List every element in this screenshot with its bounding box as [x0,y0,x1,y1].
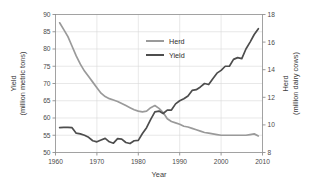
y-left-tick-label: 85 [43,28,51,35]
y-left-tick-label: 70 [43,80,51,87]
y-right-tick-label: 8 [268,149,272,156]
y-axis-right-title-line2: (million dairy cows) [291,52,300,115]
x-tick-label: 1970 [90,158,105,165]
legend-label-herd: Herd [169,37,185,46]
legend-label-yield: Yield [169,51,185,60]
y-right-tick-label: 18 [268,11,276,18]
x-tick-label: 2010 [255,158,270,165]
y-right-tick-label: 16 [268,39,276,46]
x-tick-label: 2000 [214,158,229,165]
y-left-tick-label: 50 [43,149,51,156]
y-left-tick-label: 65 [43,97,51,104]
y-left-tick-label: 55 [43,132,51,139]
x-tick-label: 1990 [172,158,187,165]
x-tick-label: 1980 [131,158,146,165]
y-left-tick-label: 80 [43,45,51,52]
y-axis-left-title-line2: (million metric tons) [18,51,27,115]
y-left-tick-label: 90 [43,11,51,18]
y-left-tick-label: 75 [43,63,51,70]
y-axis-right-title-line1: Herd [281,75,290,91]
x-tick-label: 1960 [48,158,63,165]
chart-canvas: 196019701980199020002010 505560657075808… [0,0,311,188]
y-right-tick-label: 12 [268,94,276,101]
x-axis-title: Year [152,170,167,179]
y-axis-left-title-line1: Yield [9,75,18,91]
y-left-tick-label: 60 [43,114,51,121]
y-right-tick-label: 14 [268,66,276,73]
dual-axis-line-chart: 196019701980199020002010 505560657075808… [0,0,311,188]
y-right-tick-label: 10 [268,121,276,128]
